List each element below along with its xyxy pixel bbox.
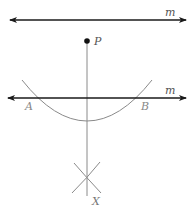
point-p-label: P — [93, 35, 102, 48]
point-a-label: A — [24, 100, 33, 113]
top-line-label: m — [165, 6, 175, 19]
construction-diagram: m P m A B X — [0, 0, 194, 220]
point-b-label: B — [140, 100, 149, 113]
middle-line-label: m — [165, 84, 175, 97]
crossing-arc-right — [72, 162, 100, 193]
point-p — [84, 38, 90, 44]
point-x-label: X — [91, 195, 101, 208]
